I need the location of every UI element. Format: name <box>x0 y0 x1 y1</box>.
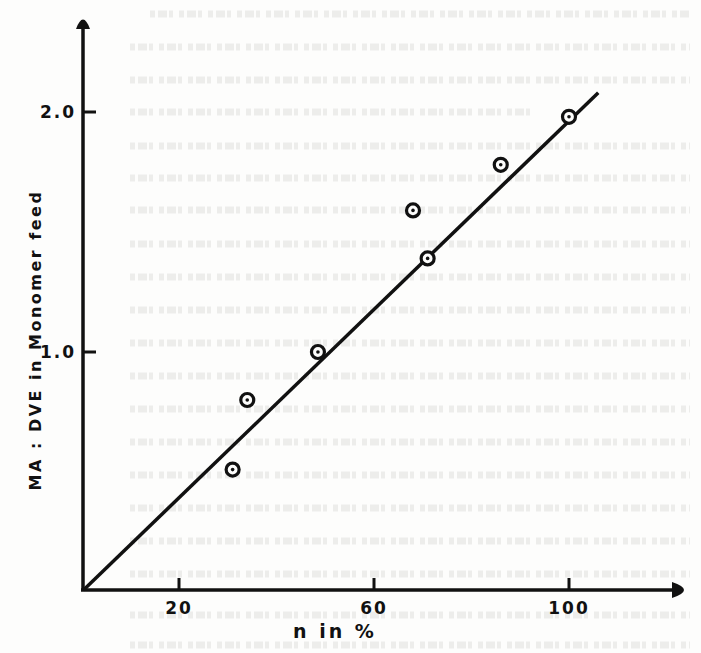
data-point-marker <box>494 158 507 171</box>
data-point-marker <box>226 463 239 476</box>
marker-center-dot <box>231 468 235 472</box>
marker-center-dot <box>567 115 571 119</box>
marker-center-dot <box>316 350 320 354</box>
paper-bleed-through-texture <box>130 14 690 645</box>
y-tick-label: 2.0 <box>40 102 76 122</box>
x-axis-title: n in % <box>293 620 377 642</box>
y-axis-ticks: 1.02.0 <box>40 102 96 362</box>
data-point-marker <box>421 252 434 265</box>
scatter-chart: 2060100 1.02.0 n in % MA : DVE in Monome… <box>0 0 701 653</box>
y-axis-arrow-icon <box>76 20 90 30</box>
x-axis-arrow-icon <box>672 582 684 598</box>
data-point-marker <box>407 204 420 217</box>
data-point-marker <box>563 110 576 123</box>
x-tick-label: 20 <box>165 598 193 618</box>
data-point-marker <box>311 346 324 359</box>
marker-center-dot <box>245 398 249 402</box>
marker-center-dot <box>411 209 415 213</box>
x-tick-label: 100 <box>548 598 590 618</box>
y-axis-title: MA : DVE in Monomer feed <box>26 190 45 491</box>
marker-center-dot <box>426 257 430 261</box>
y-tick-label: 1.0 <box>40 342 76 362</box>
marker-center-dot <box>499 163 503 167</box>
data-point-marker <box>241 394 254 407</box>
x-tick-label: 60 <box>360 598 388 618</box>
